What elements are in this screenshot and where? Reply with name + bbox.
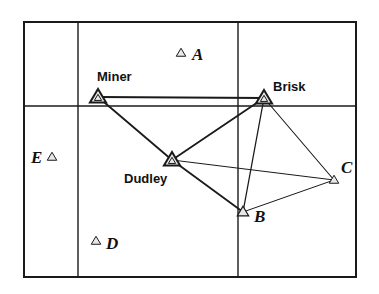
node-label-d: D [106, 235, 118, 252]
node-label-dudley: Dudley [124, 172, 167, 185]
node-label-b: B [254, 208, 265, 225]
node-label-brisk: Brisk [273, 80, 306, 93]
edge-miner-brisk [98, 97, 264, 98]
edge-layer [98, 97, 334, 212]
marker-triangle-a[interactable] [176, 48, 186, 56]
edge-dudley-brisk [172, 98, 264, 160]
edge-brisk-c [264, 98, 334, 180]
figure-canvas [0, 0, 379, 294]
edge-brisk-b [243, 98, 264, 212]
node-label-miner: Miner [97, 70, 132, 83]
map-outer-border [24, 22, 356, 277]
marker-triangle-e[interactable] [47, 152, 57, 160]
grid-layer [24, 22, 356, 277]
node-label-c: C [341, 159, 352, 176]
node-label-e: E [31, 149, 42, 166]
node-label-a: A [192, 46, 203, 63]
network-map-figure: AMinerBriskEDudleyCBD [0, 0, 379, 294]
marker-triangle-d[interactable] [91, 236, 101, 244]
